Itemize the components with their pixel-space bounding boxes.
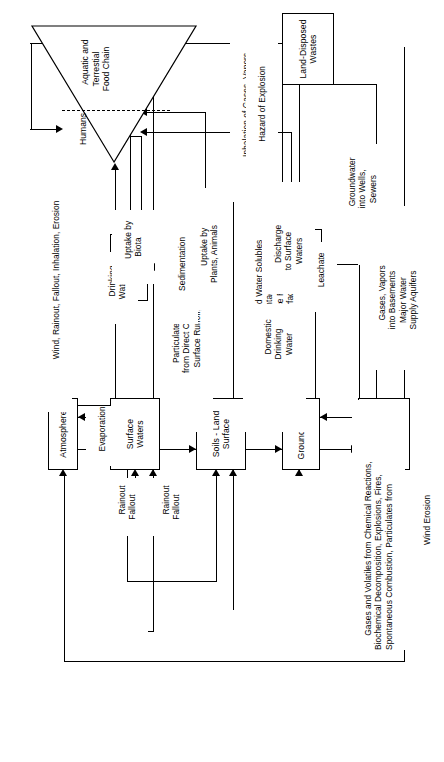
arrow-ssf-to-gw — [320, 414, 327, 422]
line-domestic-drinking — [315, 300, 316, 398]
line-gases-basements — [359, 265, 360, 398]
box-land-disposed-wastes-label: Land-Disposed Wastes — [298, 19, 319, 78]
arrow-drinking-water — [111, 163, 119, 170]
label-groundwater-wells-sewers: Groundwater into Wells, Sewers — [336, 144, 389, 234]
label-domestic-drinking-water: Domestic Drinking Water — [252, 304, 305, 384]
arrow-soils-to-gw — [275, 446, 282, 454]
label-uptake-plants-animals: Uptake by Plants, Animals — [188, 198, 230, 310]
line-rainout-soils-inlet — [216, 474, 217, 582]
label-wind-erosion: Wind Erosion — [411, 482, 443, 572]
arrow-particulates-to-surface — [149, 469, 157, 476]
label-uptake-by-biota: Uptake by Biota — [112, 210, 154, 284]
label-rainout-fallout-a: Rainout Fallout — [106, 478, 148, 536]
box-atmosphere-label: Atmosphere — [58, 410, 68, 457]
receptor-food-chain-label: Aquatic and Terrestial Food Chain — [70, 36, 122, 102]
arrow-particulates-to-soils — [229, 469, 237, 476]
label-discharge-surface-waters: Discharge to Surface Waters — [262, 208, 315, 294]
receptor-humans-label: Humans — [78, 108, 88, 150]
label-rainout-fallout-b: Rainout Fallout — [150, 478, 192, 536]
label-hazard-of-explosion: Hazard of Explosion — [246, 36, 278, 186]
line-wastes-to-atmosphere-riser — [64, 661, 405, 662]
arrow-surface-to-soils — [189, 446, 196, 454]
label-wind-rainout-fallout: Wind, Rainout, Fallout, Inhalation, Eros… — [40, 162, 72, 412]
box-land-disposed-wastes[interactable]: Land-Disposed Wastes — [282, 13, 334, 85]
arrow-surface-to-atmos — [78, 414, 85, 422]
rotated-diagram-root: Atmosphere Surface Waters Soils - Land S… — [0, 0, 444, 762]
arrow-leachate-to-gw — [295, 469, 303, 476]
label-evaporation: Evaporation — [86, 406, 118, 466]
line-atmos-inlet — [64, 474, 65, 662]
label-gases-vapors-basements: Gases, Vapors into Basements Major Water… — [366, 230, 429, 370]
box-surface-waters-label: Surface Waters — [125, 419, 146, 449]
line-rainout-to-soils — [127, 581, 217, 582]
box-surface-waters[interactable]: Surface Waters — [110, 398, 160, 470]
label-gases-volatiles: Gases and Volatiles from Chemical Reacti… — [352, 400, 405, 650]
arrow-rainout-to-surface — [131, 469, 139, 476]
arrow-to-atmosphere — [59, 469, 67, 476]
box-soils-label: Soils - Land Surface — [211, 411, 232, 458]
line-particulates-soils-inlet — [233, 474, 234, 610]
diagram-canvas: Atmosphere Surface Waters Soils - Land S… — [0, 0, 444, 762]
arrow-rainout-to-soils — [212, 469, 220, 476]
